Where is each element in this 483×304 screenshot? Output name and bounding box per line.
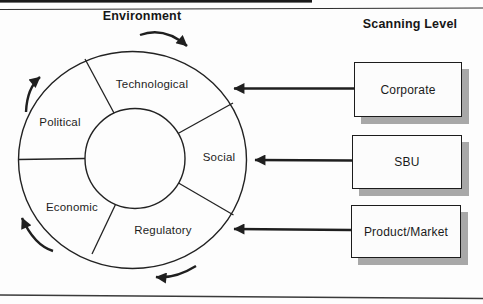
spoke-political-economic [18, 159, 85, 160]
figure-canvas: Environment Scanning Level Technological… [0, 0, 483, 304]
segment-label-regulatory: Regulatory [134, 224, 192, 236]
segment-label-political: Political [39, 116, 80, 128]
rotation-arrow-lower-left [22, 218, 53, 251]
segment-label-technological: Technological [116, 78, 188, 90]
rotation-arrow-bottom [156, 266, 196, 277]
spoke-technological-social [178, 103, 233, 134]
scanning-level-title: Scanning Level [363, 17, 458, 31]
wheel-inner-circle [85, 109, 185, 209]
spoke-social-regulatory [179, 183, 234, 215]
top-rule [0, 8, 483, 10]
segment-label-social: Social [203, 151, 236, 163]
sbu-box: SBU [352, 135, 462, 189]
corporate-box: Corporate [354, 62, 462, 117]
rotation-arrow-top [140, 32, 187, 46]
bottom-rule [0, 295, 483, 299]
sbu-box-label: SBU [394, 155, 419, 169]
spoke-political-technological [85, 59, 114, 113]
product-market-box-label: Product/Market [364, 225, 448, 239]
top-left-bar [0, 0, 312, 3]
product-market-box: Product/Market [351, 205, 461, 258]
corporate-box-label: Corporate [380, 83, 435, 97]
segment-label-economic: Economic [46, 201, 98, 213]
arrow-product-to-wheel [234, 229, 351, 230]
environment-title: Environment [103, 9, 182, 23]
arrow-sbu-to-wheel [255, 160, 352, 161]
